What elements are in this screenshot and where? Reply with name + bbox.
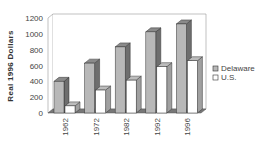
x-axis: 19621972198219921996 — [61, 117, 192, 135]
x-tick-label: 1982 — [122, 117, 131, 135]
y-tick-label: 0 — [39, 109, 44, 118]
bar-us-1972 — [96, 86, 111, 113]
y-tick-label: 800 — [30, 46, 44, 55]
x-tick-label: 1972 — [92, 117, 101, 135]
x-tick-label: 1996 — [183, 117, 192, 135]
y-tick-label: 1200 — [25, 14, 43, 23]
y-tick-label: 1000 — [25, 30, 43, 39]
legend-label: Delaware — [221, 64, 255, 73]
y-tick-label: 600 — [30, 62, 44, 71]
y-axis-label: Real 1996 Dollars — [6, 30, 15, 102]
bar-us-1996 — [187, 57, 202, 113]
y-tick-label: 200 — [30, 93, 44, 102]
x-tick-label: 1992 — [153, 117, 162, 135]
bar-us-1992 — [157, 63, 172, 113]
legend-swatch — [213, 66, 218, 71]
y-tick-label: 400 — [30, 77, 44, 86]
x-tick-label: 1962 — [61, 117, 70, 135]
side-wall — [48, 14, 53, 113]
legend: DelawareU.S. — [213, 64, 255, 82]
legend-swatch — [213, 75, 218, 80]
y-axis: 020040060080010001200 — [25, 14, 43, 118]
bar-us-1982 — [126, 76, 141, 113]
bar-chart: 020040060080010001200 196219721982199219… — [0, 0, 264, 143]
legend-label: U.S. — [221, 73, 237, 82]
